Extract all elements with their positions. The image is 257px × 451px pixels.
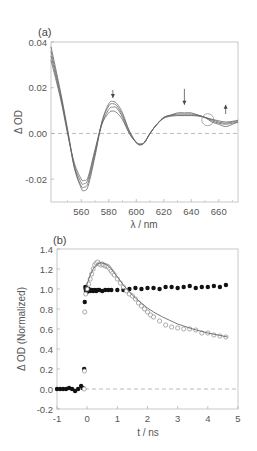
x-tick-label: 3 bbox=[175, 413, 180, 424]
open-circle-marker bbox=[176, 326, 180, 330]
open-circle-marker bbox=[82, 387, 86, 391]
open-circle-marker bbox=[84, 292, 88, 296]
panel-a-x-axis-title: λ / nm bbox=[130, 219, 157, 230]
y-tick-label: 0.2 bbox=[40, 364, 53, 375]
open-circle-marker bbox=[82, 369, 86, 373]
filled-circle-marker bbox=[224, 283, 228, 287]
y-tick-label: 1.0 bbox=[40, 284, 53, 295]
filled-circle-marker bbox=[200, 285, 204, 289]
y-tick-label: 0.04 bbox=[29, 37, 48, 48]
x-tick-label: -1 bbox=[53, 413, 61, 424]
arrow-down-head-icon bbox=[111, 94, 115, 98]
y-tick-label: -0.02 bbox=[25, 174, 47, 185]
x-tick-label: 4 bbox=[205, 413, 210, 424]
filled-circle-marker bbox=[218, 285, 222, 289]
filled-circle-marker bbox=[169, 285, 173, 289]
filled-circle-marker bbox=[83, 300, 87, 304]
y-tick-label: 0.0 bbox=[40, 384, 53, 395]
filled-circle-marker bbox=[115, 288, 119, 292]
x-tick-label: 0 bbox=[85, 413, 90, 424]
open-circle-marker bbox=[157, 319, 161, 323]
y-tick-label: 1.4 bbox=[40, 244, 53, 255]
figure-caption-cropped bbox=[20, 443, 240, 447]
open-circle-marker bbox=[170, 325, 174, 329]
filled-circle-marker bbox=[212, 284, 216, 288]
y-tick-label: 1.2 bbox=[40, 264, 53, 275]
y-tick-label: 0.6 bbox=[40, 324, 53, 335]
x-tick-label: 5 bbox=[235, 413, 240, 424]
open-circle-marker bbox=[83, 310, 87, 314]
x-tick-label: 620 bbox=[156, 206, 172, 217]
open-circle-marker bbox=[151, 315, 155, 319]
panel-a-spectra-chart: (a) 560580600620640660-0.020.000.020.04 … bbox=[13, 26, 238, 230]
panel-b-kinetics-chart: (b) -1012345-0.20.00.20.40.60.81.01.21.4… bbox=[16, 234, 241, 438]
x-tick-label: 2 bbox=[145, 413, 150, 424]
x-tick-label: 580 bbox=[101, 206, 117, 217]
y-tick-label: -0.2 bbox=[37, 404, 53, 415]
panel-b-y-axis-title: Δ OD (Normalized) bbox=[16, 287, 27, 371]
y-tick-label: 0.02 bbox=[29, 82, 48, 93]
filled-circle-marker bbox=[206, 285, 210, 289]
filled-circle-marker bbox=[133, 286, 137, 290]
filled-circle-marker bbox=[157, 287, 161, 291]
arrow-up-head-icon bbox=[224, 105, 228, 109]
filled-circle-marker bbox=[194, 286, 198, 290]
panel-b-label: (b) bbox=[53, 234, 66, 246]
y-tick-label: 0.4 bbox=[40, 344, 53, 355]
open-circle-marker bbox=[182, 327, 186, 331]
filled-circle-marker bbox=[175, 286, 179, 290]
filled-circle-marker bbox=[182, 285, 186, 289]
x-tick-label: 660 bbox=[211, 206, 227, 217]
panel-a-y-axis-title: Δ OD bbox=[13, 110, 24, 134]
panel-a-ticks: 560580600620640660-0.020.000.020.04 bbox=[25, 37, 232, 218]
arrow-down-head-icon bbox=[182, 101, 186, 105]
y-tick-label: 0.8 bbox=[40, 304, 53, 315]
filled-circle-marker bbox=[109, 288, 113, 292]
filled-circle-marker bbox=[151, 286, 155, 290]
open-circle-marker bbox=[164, 323, 168, 327]
filled-circle-marker bbox=[163, 285, 167, 289]
x-tick-label: 640 bbox=[183, 206, 199, 217]
fit-curve bbox=[85, 263, 228, 337]
y-tick-label: 0.00 bbox=[29, 128, 48, 139]
panel-a-series bbox=[51, 47, 238, 191]
figure: (a) 560580600620640660-0.020.000.020.04 … bbox=[0, 0, 257, 451]
panel-b-series bbox=[55, 260, 228, 393]
x-tick-label: 1 bbox=[115, 413, 120, 424]
panel-b-x-axis-title: t / ns bbox=[137, 427, 159, 438]
filled-circle-marker bbox=[139, 287, 143, 291]
panel-b-frame bbox=[57, 249, 238, 409]
x-tick-label: 560 bbox=[73, 206, 89, 217]
filled-circle-marker bbox=[188, 284, 192, 288]
x-tick-label: 600 bbox=[128, 206, 144, 217]
filled-circle-marker bbox=[145, 286, 149, 290]
spectrum-line bbox=[51, 51, 238, 188]
